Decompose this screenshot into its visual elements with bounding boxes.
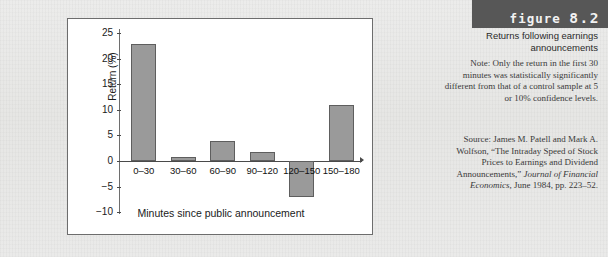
y-tick-label: 15 — [87, 79, 113, 89]
y-tick-mark — [117, 59, 121, 60]
bar — [131, 44, 156, 161]
bar — [171, 157, 196, 161]
figure-banner-number: 8.2 — [569, 10, 600, 26]
figure-banner-word: figure — [510, 11, 561, 26]
y-tick-label: −5 — [87, 182, 113, 192]
chart-panel: Return (%) 2520151050−5−10 0–3030–6060–9… — [67, 18, 373, 235]
bar — [210, 141, 235, 161]
figure-source-suffix: , June 1984, pp. 223–52. — [510, 180, 599, 190]
y-tick-mark — [117, 135, 121, 136]
figure-caption-title: Returns following earnings announcements — [446, 30, 598, 54]
bar — [250, 152, 275, 161]
bar — [329, 105, 354, 161]
x-tick-label: 0–30 — [124, 166, 164, 176]
x-tick-label: 90–120 — [243, 166, 283, 176]
x-tick-label: 120–150 — [282, 166, 322, 176]
figure-banner-text: figure 8.2 — [510, 10, 600, 26]
y-tick-label: 20 — [87, 54, 113, 64]
x-tick-label: 60–90 — [203, 166, 243, 176]
plot-area: Return (%) 2520151050−5−10 0–3030–6060–9… — [68, 19, 374, 236]
figure-note: Note: Only the return in the first 30 mi… — [442, 58, 598, 104]
y-tick-label: 25 — [87, 28, 113, 38]
y-tick-mark — [117, 110, 121, 111]
y-tick-mark — [117, 33, 121, 34]
figure-source: Source: James M. Patell and Mark A. Wolf… — [442, 134, 598, 192]
x-axis-line — [119, 161, 362, 162]
x-tick-label: 30–60 — [164, 166, 204, 176]
y-tick-mark — [117, 161, 121, 162]
x-axis-arrow-icon — [360, 157, 364, 163]
y-tick-mark — [117, 187, 121, 188]
figure-number-banner: figure 8.2 — [472, 0, 608, 28]
y-tick-mark — [117, 84, 121, 85]
x-tick-label: 150–180 — [322, 166, 362, 176]
y-tick-label: 5 — [87, 130, 113, 140]
x-axis-label: Minutes since public announcement — [68, 207, 374, 219]
caption-column: figure 8.2 Returns following earnings an… — [440, 0, 608, 257]
y-tick-label: 0 — [87, 156, 113, 166]
figure-page: Return (%) 2520151050−5−10 0–3030–6060–9… — [0, 0, 608, 257]
y-tick-label: 10 — [87, 105, 113, 115]
